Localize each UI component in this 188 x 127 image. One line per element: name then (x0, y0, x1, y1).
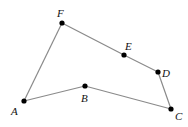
edge-ef (62, 23, 124, 55)
vertex-b-dot (82, 83, 87, 88)
vertex-f-label: F (56, 7, 64, 19)
vertex-a-label: A (10, 105, 18, 117)
vertex-c-label: C (175, 110, 183, 122)
vertex-a-dot (21, 98, 26, 103)
polygon-edges (24, 23, 171, 109)
vertex-b-label: B (81, 92, 88, 104)
vertex-e-label: E (124, 40, 132, 52)
edge-de (124, 55, 158, 72)
vertex-c-dot (168, 106, 173, 111)
vertex-d-dot (155, 69, 160, 74)
edge-bc (85, 86, 171, 109)
vertex-e-dot (121, 52, 126, 57)
edge-fa (24, 23, 62, 101)
edge-ab (24, 86, 85, 101)
vertex-d-label: D (161, 67, 170, 79)
polygon-vertices (21, 20, 173, 111)
vertex-f-dot (59, 20, 64, 25)
polygon-diagram: ABCDEF (0, 0, 188, 127)
